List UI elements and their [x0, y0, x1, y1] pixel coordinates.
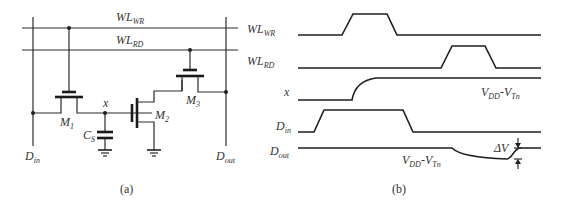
delta-v-marker: ΔV: [493, 138, 522, 169]
ground-icon: [147, 150, 161, 156]
figure-canvas: WLWR WLRD x M1 M2 M3 CS Din Dout (a) WLW…: [0, 0, 563, 207]
signal-label-x: x: [283, 85, 290, 99]
panel-b-timing: WLWR WLRD x Din Dout VDD-VTn VDD-VTn ΔV …: [247, 14, 541, 196]
waveform-wl-wr: [298, 14, 541, 35]
waveform-wl-rd: [298, 46, 541, 68]
m3-drain-wire: [198, 76, 226, 92]
label-m1: M1: [59, 115, 74, 131]
signal-label-d-out: Dout: [269, 144, 290, 160]
m1-source-wire: [33, 97, 61, 113]
label-d-in: Din: [24, 149, 40, 165]
storage-node: [97, 111, 113, 156]
m2-source-wire: [137, 122, 154, 150]
signal-label-wl-wr: WLWR: [247, 22, 275, 38]
label-d-out: Dout: [215, 149, 236, 165]
annotation-x-level: VDD-VTn: [481, 85, 520, 101]
caption-a: (a): [120, 182, 133, 196]
delta-v-label: ΔV: [493, 141, 510, 155]
signal-label-d-in: Din: [275, 119, 291, 135]
annotation-dout-level: VDD-VTn: [402, 153, 441, 169]
label-wl-wr: WLWR: [116, 10, 144, 26]
caption-b: (b): [392, 182, 406, 196]
transistor-m3: [176, 48, 228, 94]
label-m3: M3: [185, 93, 200, 109]
label-wl-rd: WLRD: [116, 33, 144, 49]
m2-drain-wire: [137, 80, 182, 102]
junction-dot: [31, 111, 35, 115]
label-m2: M2: [154, 108, 169, 124]
waveform-d-in: [298, 110, 541, 132]
panel-a-schematic: WLWR WLRD x M1 M2 M3 CS Din Dout (a): [22, 10, 238, 196]
ground-icon: [98, 150, 112, 156]
signal-label-wl-rd: WLRD: [247, 54, 275, 70]
label-node-x: x: [102, 96, 109, 110]
label-cs: CS: [83, 128, 95, 144]
junction-dot: [224, 90, 228, 94]
m1-drain-wire: [77, 97, 152, 113]
